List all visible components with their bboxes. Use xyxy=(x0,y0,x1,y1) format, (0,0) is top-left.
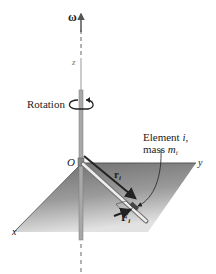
r-subscript: i xyxy=(119,174,121,182)
r-vector-label: ri xyxy=(114,168,121,184)
f-subscript: i xyxy=(128,217,130,225)
element-text: Element xyxy=(143,131,182,143)
x-axis-label: x xyxy=(12,226,16,238)
element-comma: , xyxy=(185,131,188,143)
mass-symbol: m xyxy=(168,143,176,155)
element-label: Element i, xyxy=(143,131,188,143)
mass-subscript: i xyxy=(176,149,178,157)
f-vector-label: Fi xyxy=(121,211,130,227)
origin-label: O xyxy=(67,156,75,168)
omega-label: ω xyxy=(68,11,77,23)
mass-label: mass mi xyxy=(143,143,178,159)
rotation-label: Rotation xyxy=(27,98,65,110)
z-axis-label: z xyxy=(72,56,76,68)
y-axis-label: y xyxy=(198,157,202,169)
mass-text: mass xyxy=(143,143,168,155)
